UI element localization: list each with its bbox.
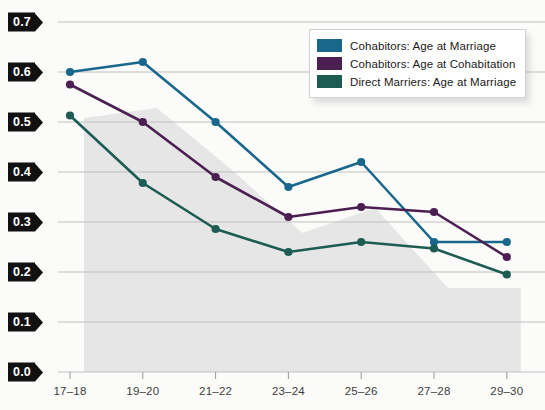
data-point bbox=[212, 118, 220, 126]
line-chart: 0.70.60.50.40.30.20.10.0 17–1819–2021–22… bbox=[0, 0, 545, 410]
tag-pointer-icon bbox=[35, 363, 43, 381]
data-point bbox=[66, 68, 74, 76]
y-axis-tick-value: 0.4 bbox=[8, 163, 35, 182]
x-axis-tick-label: 19–20 bbox=[126, 385, 159, 397]
data-point bbox=[212, 173, 220, 181]
data-point bbox=[430, 244, 438, 252]
data-point bbox=[503, 270, 511, 278]
data-point bbox=[284, 183, 292, 191]
y-axis-tick-value: 0.5 bbox=[8, 113, 35, 132]
y-axis-tick-value: 0.7 bbox=[8, 13, 35, 32]
y-axis-tick-label: 0.1 bbox=[8, 313, 43, 332]
data-point bbox=[212, 225, 220, 233]
legend-item[interactable]: Direct Marriers: Age at Marriage bbox=[317, 73, 516, 90]
y-axis-tick-label: 0.0 bbox=[8, 363, 43, 382]
data-point bbox=[284, 248, 292, 256]
legend-item[interactable]: Cohabitors: Age at Cohabitation bbox=[317, 55, 516, 72]
x-axis-tick-label: 23–24 bbox=[272, 385, 305, 397]
legend-label: Direct Marriers: Age at Marriage bbox=[350, 76, 516, 88]
data-point bbox=[139, 58, 147, 66]
x-axis-tick-label: 21–22 bbox=[199, 385, 232, 397]
legend: Cohabitors: Age at MarriageCohabitors: A… bbox=[309, 29, 526, 98]
legend-label: Cohabitors: Age at Cohabitation bbox=[350, 58, 516, 70]
y-axis-tick-label: 0.4 bbox=[8, 163, 43, 182]
data-point bbox=[357, 203, 365, 211]
tag-pointer-icon bbox=[35, 13, 43, 31]
x-axis-tick-label: 29–30 bbox=[490, 385, 523, 397]
tag-pointer-icon bbox=[35, 63, 43, 81]
y-axis-tick-label: 0.6 bbox=[8, 63, 43, 82]
y-axis-tick-label: 0.7 bbox=[8, 13, 43, 32]
data-point bbox=[139, 179, 147, 187]
y-axis-tick-label: 0.2 bbox=[8, 263, 43, 282]
tag-pointer-icon bbox=[35, 263, 43, 281]
y-axis-tick-value: 0.3 bbox=[8, 213, 35, 232]
tag-pointer-icon bbox=[35, 213, 43, 231]
legend-swatch-icon bbox=[317, 75, 342, 88]
y-axis-tick-label: 0.3 bbox=[8, 213, 43, 232]
data-point bbox=[139, 118, 147, 126]
y-axis-tick-value: 0.2 bbox=[8, 263, 35, 282]
y-axis-tick-value: 0.6 bbox=[8, 63, 35, 82]
data-point bbox=[284, 213, 292, 221]
data-point bbox=[503, 253, 511, 261]
tag-pointer-icon bbox=[35, 113, 43, 131]
tag-pointer-icon bbox=[35, 163, 43, 181]
data-point bbox=[66, 111, 74, 119]
x-axis-ticks bbox=[70, 372, 507, 379]
data-point bbox=[357, 238, 365, 246]
legend-swatch-icon bbox=[317, 39, 342, 52]
data-point bbox=[503, 238, 511, 246]
y-axis-tick-value: 0.0 bbox=[8, 363, 35, 382]
data-point bbox=[357, 158, 365, 166]
data-point bbox=[66, 80, 74, 88]
x-axis-tick-label: 25–26 bbox=[345, 385, 378, 397]
x-axis-tick-label: 17–18 bbox=[54, 385, 87, 397]
y-axis-tick-value: 0.1 bbox=[8, 313, 35, 332]
tag-pointer-icon bbox=[35, 313, 43, 331]
legend-swatch-icon bbox=[317, 57, 342, 70]
series-drop-shadow bbox=[84, 108, 521, 372]
x-axis-tick-label: 27–28 bbox=[418, 385, 451, 397]
legend-label: Cohabitors: Age at Marriage bbox=[350, 40, 496, 52]
data-point bbox=[430, 208, 438, 216]
legend-item[interactable]: Cohabitors: Age at Marriage bbox=[317, 37, 516, 54]
y-axis-tick-label: 0.5 bbox=[8, 113, 43, 132]
